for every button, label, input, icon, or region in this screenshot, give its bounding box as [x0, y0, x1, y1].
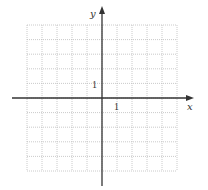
coordinate-plane: x y 1 1 [0, 0, 208, 190]
y-tick-label-1: 1 [92, 79, 97, 90]
y-axis-arrow-icon [99, 6, 105, 14]
x-tick-label-1: 1 [114, 101, 119, 112]
x-axis-label: x [187, 101, 193, 112]
y-axis-label: y [89, 8, 96, 19]
